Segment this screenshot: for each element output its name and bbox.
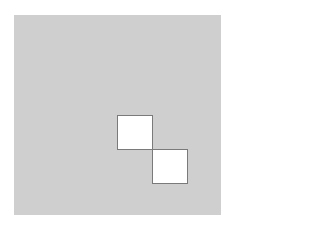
white-square-1 (117, 115, 153, 150)
white-square-2 (152, 149, 188, 184)
